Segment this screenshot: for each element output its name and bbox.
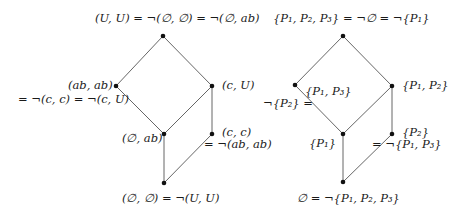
- diagram-canvas: (U, U) = ¬(∅, ∅) = ¬(∅, ab) (ab, ab) = ¬…: [0, 0, 459, 221]
- node-dot: [114, 84, 119, 89]
- node-label-right: (c, U): [222, 80, 254, 92]
- node-label-left-eq: = ¬(c, c) = ¬(c, U): [18, 94, 129, 106]
- node-dot: [390, 84, 395, 89]
- node-label-left-eq: ¬{P₂} =: [263, 98, 313, 110]
- node-label-rightlow-eq: = ¬{P₁, P₃}: [372, 139, 442, 151]
- node-label-bottom: ∅ = ¬{P₁, P₂, P₃}: [297, 193, 400, 205]
- node-dot: [210, 132, 215, 137]
- node-dot: [341, 180, 346, 185]
- node-label-mid: (∅, ab): [122, 133, 163, 145]
- node-dot: [162, 181, 167, 186]
- node-label-top: {P₁, P₂, P₃} = ¬∅ = ¬{P₁}: [273, 13, 429, 25]
- node-dot: [341, 34, 346, 39]
- node-label-rightlow-eq: = ¬(ab, ab): [204, 139, 272, 151]
- lattice-edges: [0, 0, 459, 221]
- node-dot: [210, 84, 215, 89]
- node-dot: [293, 83, 298, 88]
- node-dot: [341, 132, 346, 137]
- node-dot: [390, 132, 395, 137]
- node-label-mid: {P₁}: [309, 138, 336, 150]
- node-label-bottom: (∅, ∅) = ¬(U, U): [122, 193, 219, 205]
- node-dot: [161, 34, 166, 39]
- node-label-right: {P₁, P₂}: [402, 80, 449, 92]
- node-label-left: (ab, ab): [68, 80, 113, 92]
- node-label-top: (U, U) = ¬(∅, ∅) = ¬(∅, ab): [95, 13, 260, 25]
